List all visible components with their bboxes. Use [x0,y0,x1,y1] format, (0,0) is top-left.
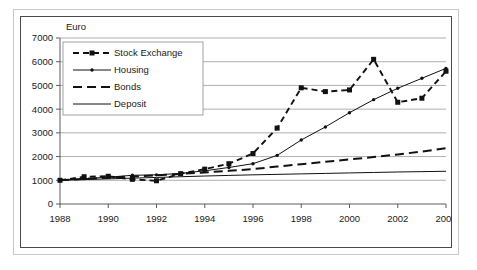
y-tick-label: 0 [48,198,53,209]
y-tick-label: 7000 [32,32,53,43]
data-point-marker [395,100,400,105]
line-chart: Euro 01000200030004000500060007000 19881… [20,16,452,248]
legend-label-3: Deposit [114,98,147,109]
data-point-marker [299,85,304,90]
legend-marker-1 [90,68,93,71]
data-point-marker [226,161,231,166]
x-tick-label: 2000 [339,213,360,224]
data-point-marker [251,151,256,156]
x-tick-label: 2002 [387,213,408,224]
x-tick-label: 1990 [98,213,119,224]
data-point-marker [420,77,423,80]
x-axis-tick-labels: 198819901992199419961998200020022004 [49,213,452,224]
chart-legend: Stock ExchangeHousingBondsDeposit [63,42,203,115]
x-tick-label: 1998 [291,213,312,224]
data-point-marker [347,87,352,92]
data-point-marker [154,178,159,183]
data-point-marker [444,67,447,70]
y-axis-unit-label: Euro [66,21,86,32]
data-point-marker [155,173,158,176]
y-tick-label: 4000 [32,104,53,115]
data-point-marker [251,162,254,165]
x-tick-label: 1994 [194,213,215,224]
y-tick-label: 6000 [32,56,53,67]
unit-label-group: Euro [66,21,86,32]
data-point-marker [372,98,375,101]
x-tick-label: 1988 [49,213,70,224]
data-point-marker [300,138,303,141]
x-tick-label: 2004 [435,213,452,224]
legend-label-0: Stock Exchange [114,47,183,58]
data-point-marker [419,96,424,101]
data-point-marker [227,166,230,169]
data-point-marker [324,125,327,128]
y-tick-label: 2000 [32,151,53,162]
y-axis-tick-labels: 01000200030004000500060007000 [32,32,53,209]
x-tick-label: 1992 [146,213,167,224]
y-tick-label: 5000 [32,80,53,91]
legend-label-2: Bonds [114,81,141,92]
data-point-marker [396,87,399,90]
x-tick-label: 1996 [242,213,263,224]
data-point-marker [275,126,280,131]
data-point-marker [323,89,328,94]
data-point-marker [371,57,376,62]
legend-marker-0 [90,51,95,56]
y-tick-label: 1000 [32,175,53,186]
data-point-marker [130,177,135,182]
legend-label-1: Housing [114,64,149,75]
series-line-3 [60,171,446,180]
y-tick-label: 3000 [32,127,53,138]
data-point-marker [275,154,278,157]
data-point-marker [348,111,351,114]
